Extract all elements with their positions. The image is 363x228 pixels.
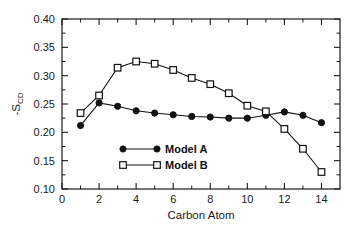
svg-text:-SCD: -SCD [10,92,25,115]
data-point-marker [300,112,306,118]
data-point-marker [96,100,102,106]
data-point-marker [188,75,195,82]
x-axis-title: Carbon Atom [167,209,234,221]
y-tick-label: 0.25 [34,98,55,110]
y-axis-title-main: -S [10,104,22,116]
data-point-marker [189,113,195,119]
data-point-marker [152,110,158,116]
data-point-marker [318,120,324,126]
legend-item-model-a: Model A [120,143,208,155]
y-tick-label: 0.35 [34,41,55,53]
y-tick-label: 0.15 [34,155,55,167]
data-point-marker [114,64,121,71]
x-axis-tick-labels: 02468101214 [59,193,328,205]
data-point-marker [281,109,287,115]
x-tick-label: 8 [207,193,213,205]
y-tick-label: 0.40 [34,13,55,25]
legend-label: Model B [165,159,208,171]
legend-item-model-b: Model B [120,159,208,171]
x-tick-label: 0 [59,193,65,205]
data-point-marker [281,126,288,133]
legend-label: Model A [165,143,207,155]
y-axis-tick-labels: 0.100.150.200.250.300.350.40 [34,13,55,195]
data-point-marker [207,81,214,88]
x-tick-label: 4 [133,193,139,205]
x-tick-label: 6 [170,193,176,205]
data-point-marker [226,115,232,121]
legend-marker [120,146,126,152]
legend-marker [154,162,161,169]
data-point-marker [170,112,176,118]
data-point-marker [207,114,213,120]
data-point-marker [244,102,251,109]
x-tick-label: 10 [241,193,253,205]
legend-marker [154,146,160,152]
y-axis-title-subscript: CD [16,92,25,104]
legend: Model AModel B [120,143,208,171]
data-point-marker [300,145,307,152]
data-point-marker [226,90,233,97]
chart-figure: 0.100.150.200.250.300.350.40 02468101214… [0,0,363,228]
data-point-marker [318,169,325,176]
data-point-marker [115,103,121,109]
data-series-layer [77,58,325,175]
data-point-marker [133,108,139,114]
line-chart: 0.100.150.200.250.300.350.40 02468101214… [0,0,363,228]
series-model-a [77,100,324,129]
x-tick-label: 12 [278,193,290,205]
data-point-marker [151,60,158,67]
legend-marker [120,162,127,169]
y-tick-label: 0.20 [34,126,55,138]
x-tick-label: 14 [315,193,327,205]
data-point-marker [133,58,140,65]
x-tick-label: 2 [96,193,102,205]
data-point-marker [77,110,84,117]
data-point-marker [96,92,103,99]
y-tick-label: 0.10 [34,183,55,195]
data-point-marker [77,122,83,128]
data-point-marker [244,115,250,121]
y-tick-label: 0.30 [34,70,55,82]
data-point-marker [170,67,177,74]
data-point-marker [263,108,270,115]
y-axis-title: -SCD [10,92,25,115]
